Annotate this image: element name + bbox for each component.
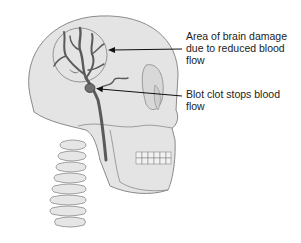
label-brain-damage: Area of brain damage due to reduced bloo…: [186, 30, 301, 66]
blood-clot: [85, 84, 95, 93]
skull: [29, 16, 178, 194]
label-blood-clot: Blot clot stops blood flow: [186, 88, 301, 112]
cervical-spine: [50, 140, 86, 227]
